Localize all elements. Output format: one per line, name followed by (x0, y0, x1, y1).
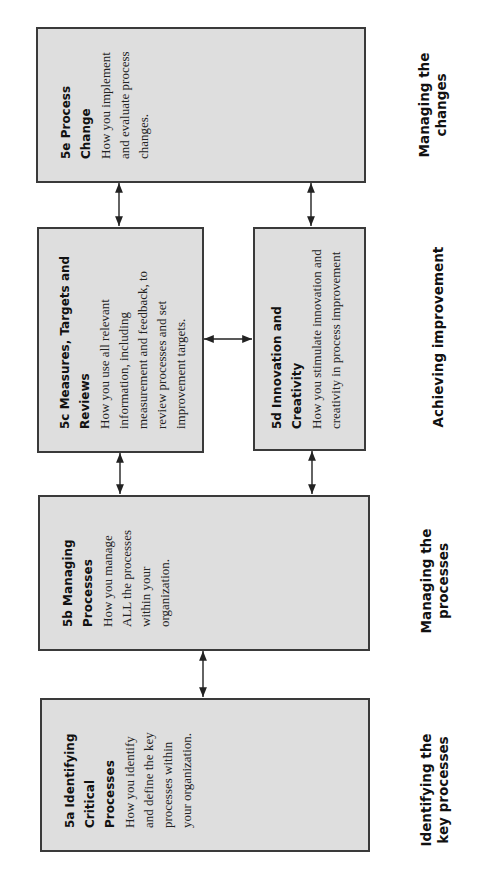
stage-label-managing-changes-line-2: changes (433, 45, 450, 165)
box-5a-desc-line-3: processes within (158, 698, 177, 828)
box-5a-identifying-critical-processes: 5a Identifying Critical Processes How yo… (40, 698, 370, 852)
box-5e-process-change: 5e Process Change How you implement and … (36, 27, 366, 183)
box-5a-title-line-1: 5a Identifying (60, 698, 80, 828)
stage-label-managing-processes-line-2: processes (435, 521, 452, 641)
box-5b-desc-line-4: organization. (155, 495, 174, 627)
box-5c-desc-line-2: information, including (114, 227, 133, 429)
box-5a-desc-line-2: and define the key (139, 698, 158, 828)
box-5a-desc-line-1: How you identify (120, 698, 139, 828)
box-5d-desc-line-2: creativity in process improvement (326, 227, 345, 429)
stage-label-achieving-improvement-line-1: Achieving improvement (430, 248, 447, 428)
stage-label-managing-processes: Managing the processes (418, 521, 452, 641)
box-5a-title-line-3: Processes (100, 698, 120, 828)
box-5d-desc-line-1: How you stimulate innovation and (307, 227, 326, 429)
stage-label-achieving-improvement: Achieving improvement (430, 248, 447, 428)
box-5b-desc-line-3: within your (136, 495, 155, 627)
box-5b-desc-line-2: ALL the processes (117, 495, 136, 627)
box-5b-title-line-1: 5b Managing (58, 495, 78, 627)
box-5d-title-line-2: Creativity (287, 227, 307, 429)
box-5b-desc-line-1: How you manage (98, 495, 117, 627)
stage-label-identifying-key-processes-line-1: Identifying the (418, 730, 435, 850)
box-5b-title-line-2: Processes (78, 495, 98, 627)
box-5d-title-line-1: 5d Innovation and (267, 227, 287, 429)
stage-label-managing-processes-line-1: Managing the (418, 521, 435, 641)
stage-label-managing-changes-line-1: Managing the (416, 45, 433, 165)
box-5c-desc-line-4: review processes and set (152, 227, 171, 429)
box-5c-measures-targets-reviews: 5c Measures, Targets and Reviews How you… (37, 227, 204, 453)
stage-label-identifying-key-processes: Identifying the key processes (418, 730, 452, 850)
box-5c-desc-line-1: How you use all relevant (95, 227, 114, 429)
box-5a-desc-line-4: your organization. (177, 698, 196, 828)
stage-label-identifying-key-processes-line-2: key processes (435, 730, 452, 850)
box-5c-desc-line-5: improvement targets. (171, 227, 190, 429)
box-5d-innovation-creativity: 5d Innovation and Creativity How you sti… (253, 227, 366, 451)
box-5b-managing-processes: 5b Managing Processes How you manage ALL… (38, 495, 370, 651)
box-5c-desc-line-3: measurement and feedback, to (133, 227, 152, 429)
box-5a-title-line-2: Critical (80, 698, 100, 828)
box-5e-desc-line-3: changes. (134, 27, 153, 159)
stage-label-managing-changes: Managing the changes (416, 45, 450, 165)
box-5e-desc-line-2: and evaluate process (115, 27, 134, 159)
box-5e-title-line-2: Change (76, 27, 96, 159)
box-5c-title-line-1: 5c Measures, Targets and (55, 227, 75, 429)
box-5c-title-line-2: Reviews (75, 227, 95, 429)
box-5e-title-line-1: 5e Process (56, 27, 76, 159)
box-5e-desc-line-1: How you implement (96, 27, 115, 159)
